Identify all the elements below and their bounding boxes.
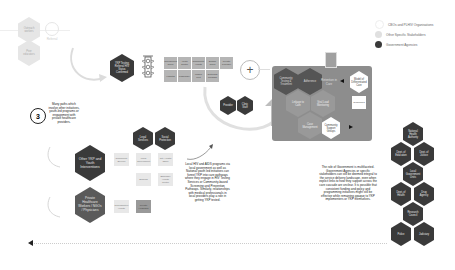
curve-arrow-icon (185, 143, 215, 163)
intervention-box: City Health Office (158, 153, 173, 166)
grid-box: Hospital (164, 70, 177, 82)
gov-hex: Police (391, 222, 411, 246)
intervention-box: Barangay Health Centre (158, 173, 173, 186)
intervention-box: Private Hospitals (136, 200, 151, 213)
step-3-description: Many paths which involve other initiativ… (48, 103, 80, 125)
grid-box: Community Health (192, 57, 205, 69)
outreach-hex: Outreach workers (18, 17, 40, 43)
intervention-box: Community Service (114, 153, 129, 166)
curve-arrow-icon (45, 145, 65, 170)
connector-line (258, 69, 270, 70)
guidelines-box: Guidelines (352, 96, 366, 109)
peer-hex: Peer educators (18, 40, 40, 66)
gov-hex: Research Council (403, 202, 423, 226)
legend-swatch-dark (375, 41, 382, 48)
intervention-box: Local Government (136, 153, 151, 166)
testing-entry-hex: YKP Testing Referral HIV Status Confirme… (110, 54, 134, 82)
referral-circle-icon (45, 22, 59, 36)
cluster-top-tab (325, 52, 337, 68)
gov-hex: Dept. of Education (391, 142, 411, 166)
center-description: Local HIV and AIDS programs via local go… (185, 163, 230, 203)
legend-government: Government Agencies (375, 41, 417, 48)
private-healthcare-hex: Private Healthcare Workers / NGOs / Phys… (75, 187, 105, 223)
grid-box: Pharmacy (178, 70, 191, 82)
referral-label: Referral (42, 38, 62, 42)
legend-stakeholders: Other Specific Stakeholders (375, 31, 426, 38)
cluster-label: Retention in Care (318, 79, 340, 86)
arrow-right-icon (349, 125, 353, 129)
government-description: The role of Government is multifaceted. … (318, 166, 378, 202)
traffic-light-icon (141, 55, 155, 79)
legend-swatch-light (375, 31, 382, 38)
gov-hex: Dept. of Health (391, 182, 411, 206)
step-3-circle: 3 (30, 108, 46, 124)
social-protection-hex: Social Protection (155, 127, 175, 150)
grid-box: Counselling Clinic (164, 57, 177, 69)
gov-hex: Drug Agency (414, 182, 434, 206)
gov-hex: Dept. of Justice (414, 142, 434, 166)
plus-circle-icon: + (240, 60, 260, 80)
other-interventions-hex: Other YKP and Youth Interventions (75, 145, 105, 181)
grid-box: Private Provider (220, 57, 233, 69)
curve-arrow-icon (45, 195, 65, 220)
curved-arrow-icon (65, 40, 110, 85)
legend-swatch-white (375, 20, 384, 29)
arrow-left-icon (340, 79, 344, 83)
intervention-box: Schools (136, 173, 151, 186)
grid-box: Youth Centre (178, 57, 191, 69)
grid-box: Outreach Program (206, 70, 219, 82)
intervention-box: Reproductive Health (114, 200, 129, 213)
arrow-left-icon (28, 240, 33, 246)
gov-hex: National Health Authority (403, 122, 423, 146)
grid-box: Mobile Unit (192, 70, 205, 82)
legend-cbo: CBOs and PLHIV Organisations (375, 20, 433, 29)
gov-hex: Local Government Units (403, 162, 423, 186)
grid-box: School Clinic (206, 57, 219, 69)
gov-hex: Judiciary (414, 222, 434, 246)
legal-services-hex: Legal Services (133, 127, 153, 150)
return-arrow-line (32, 243, 387, 244)
